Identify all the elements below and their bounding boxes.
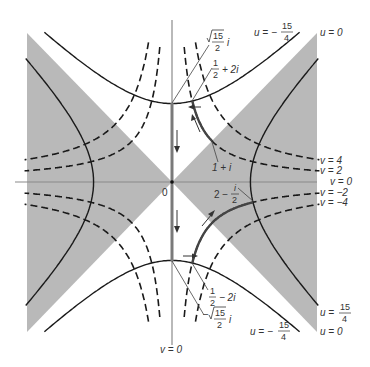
svg-text:15: 15 <box>279 320 289 330</box>
label-u-15-4-bottom: u = 15 4 <box>320 302 351 324</box>
svg-text:15: 15 <box>215 308 225 318</box>
svg-text:15: 15 <box>282 21 292 31</box>
svg-text:2: 2 <box>215 43 220 53</box>
svg-text:−: − <box>203 309 209 320</box>
svg-text:2 −: 2 − <box>214 189 228 200</box>
label-1-plus-i: 1 + i <box>212 162 232 173</box>
svg-text:15: 15 <box>213 31 223 41</box>
svg-text:15: 15 <box>340 302 350 312</box>
svg-text:u = −: u = − <box>254 27 277 38</box>
label-v-0-right: v = 0 <box>330 176 352 187</box>
svg-text:4: 4 <box>284 33 289 43</box>
svg-text:u =: u = <box>320 307 334 318</box>
label-u-neg-15-4-bottom: u = − 15 4 <box>250 320 290 342</box>
arrow-down-upper-icon <box>174 130 180 153</box>
arrow-down-lower-icon <box>174 210 180 233</box>
label-v-2: v = 2 <box>320 165 342 176</box>
svg-text:+ 2i: + 2i <box>222 64 239 75</box>
svg-text:2: 2 <box>217 320 222 330</box>
label-half-plus-2i: 1 2 + 2i <box>212 58 239 80</box>
svg-text:2: 2 <box>210 298 215 308</box>
label-u-zero-bottom: u = 0 <box>320 326 343 337</box>
label-half-minus-2i: 1 2 − 2i <box>209 286 236 308</box>
svg-text:1: 1 <box>213 58 218 68</box>
label-v-neg-4: v = −4 <box>320 197 348 208</box>
label-u-neg-15-4-top: u = − 15 4 <box>254 21 293 43</box>
label-sqrt15-over-2-i: 15 2 i <box>207 30 230 53</box>
svg-text:4: 4 <box>342 314 347 324</box>
svg-text:2: 2 <box>213 70 218 80</box>
origin-label: 0 <box>162 187 168 198</box>
level-curve-diagram: 0 u = − 15 4 u = 0 v = 4 v = 2 v = 0 v =… <box>0 0 370 367</box>
svg-text:i: i <box>229 314 232 325</box>
svg-text:i: i <box>227 37 230 48</box>
label-u-zero-top: u = 0 <box>320 27 343 38</box>
label-neg-sqrt15-over-2-i: − 15 2 i <box>203 307 232 330</box>
svg-text:2: 2 <box>232 195 237 205</box>
svg-text:4: 4 <box>281 332 286 342</box>
svg-text:− 2i: − 2i <box>219 292 236 303</box>
curve-intersection-points <box>170 180 174 184</box>
svg-text:1: 1 <box>210 286 215 296</box>
svg-text:u = −: u = − <box>250 326 273 337</box>
label-v-0-bottom: v = 0 <box>160 344 182 355</box>
